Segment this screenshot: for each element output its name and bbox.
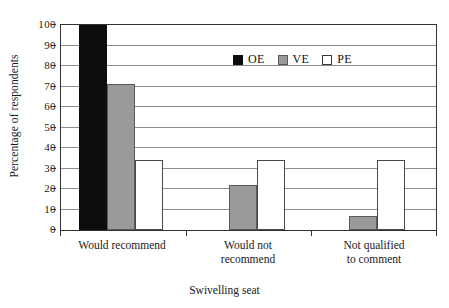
- bar-ve-group1: [107, 84, 135, 230]
- x-tick-mark-1: [186, 230, 187, 236]
- plot-area: OE VE PE: [60, 24, 437, 231]
- category-label-3: Not qualifiedto comment: [299, 238, 449, 266]
- gridline-90: [61, 45, 436, 46]
- x-axis-ticks: [60, 230, 437, 237]
- y-tick-mark-100: [51, 24, 56, 25]
- y-tick-mark-0: [51, 229, 56, 230]
- x-axis-title: Swivelling seat: [0, 284, 449, 296]
- category-label-line: to comment: [299, 252, 449, 266]
- y-tick-mark-80: [51, 65, 56, 66]
- gray-square-icon: [278, 55, 288, 65]
- y-tick-mark-60: [51, 106, 56, 107]
- y-tick-mark-50: [51, 127, 56, 128]
- y-tick-mark-30: [51, 168, 56, 169]
- y-axis-ticks: 0102030405060708090100: [20, 24, 56, 230]
- y-tick-mark-40: [51, 147, 56, 148]
- bar-oe-group1: [79, 25, 107, 230]
- category-label-line: Not qualified: [299, 238, 449, 252]
- legend-item-oe: OE: [233, 52, 265, 67]
- bar-ve-group3: [349, 216, 377, 230]
- bar-ve-group2: [229, 185, 257, 230]
- chart-figure: Percentage of respondents 01020304050607…: [0, 0, 449, 308]
- legend-label-oe: OE: [248, 52, 265, 67]
- x-tick-mark-3: [436, 230, 437, 236]
- x-tick-mark-0: [60, 230, 61, 236]
- black-square-icon: [233, 55, 243, 65]
- legend-item-pe: PE: [322, 52, 352, 67]
- bar-pe-group2: [257, 160, 285, 230]
- y-tick-mark-70: [51, 86, 56, 87]
- x-tick-mark-2: [311, 230, 312, 236]
- y-tick-mark-10: [51, 209, 56, 210]
- y-tick-mark-90: [51, 45, 56, 46]
- bar-pe-group3: [377, 160, 405, 230]
- white-square-icon: [322, 55, 332, 65]
- bar-pe-group1: [135, 160, 163, 230]
- legend: OE VE PE: [233, 52, 352, 67]
- y-tick-mark-20: [51, 188, 56, 189]
- legend-label-ve: VE: [293, 52, 310, 67]
- legend-label-pe: PE: [337, 52, 352, 67]
- y-axis-title-text: Percentage of respondents: [8, 54, 20, 177]
- legend-item-ve: VE: [278, 52, 310, 67]
